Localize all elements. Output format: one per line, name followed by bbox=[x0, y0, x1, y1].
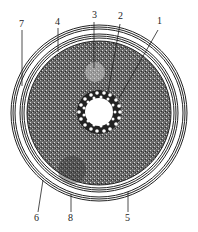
dark-blotch bbox=[58, 156, 86, 184]
label-2: 2 bbox=[118, 11, 123, 21]
label-5: 5 bbox=[125, 213, 130, 223]
light-blotch bbox=[85, 62, 105, 82]
label-8: 8 bbox=[68, 213, 73, 223]
label-1: 1 bbox=[157, 16, 162, 26]
label-6: 6 bbox=[34, 213, 39, 223]
label-4: 4 bbox=[55, 17, 60, 27]
label-7: 7 bbox=[19, 19, 24, 29]
center-core bbox=[85, 98, 113, 126]
cross-section-diagram bbox=[0, 0, 198, 232]
label-3: 3 bbox=[92, 10, 97, 20]
